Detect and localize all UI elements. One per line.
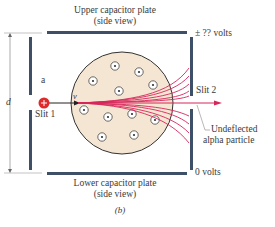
left-wall-lower: [29, 110, 32, 170]
figure-caption: (b): [110, 205, 130, 216]
right-wall-upper: [190, 37, 193, 96]
nucleus-icon: [89, 77, 97, 85]
nucleus-icon: [104, 113, 112, 121]
nucleus-icon: [111, 62, 119, 70]
lower-plate-label-line2: (side view): [60, 189, 170, 200]
undeflected-label-line2: alpha particle: [203, 135, 254, 146]
right-wall-lower: [190, 109, 193, 170]
upper-plate-label-line1: Upper capacitor plate: [60, 5, 170, 16]
nucleus-icon: [80, 106, 88, 114]
nucleus-icon: [130, 131, 138, 139]
slit1-label: Slit 1: [35, 109, 55, 120]
nucleus-icon: [98, 133, 106, 141]
velocity-label: v: [73, 91, 77, 102]
alpha-particle-icon: [39, 98, 50, 109]
lower-voltage-label: 0 volts: [195, 167, 221, 178]
leader-line: [197, 105, 210, 130]
nucleus-icon: [149, 81, 157, 89]
slit2-label: Slit 2: [196, 85, 216, 96]
undeflected-label-line1: Undeflected: [211, 124, 257, 135]
lower-capacitor-plate: [47, 172, 187, 175]
region-a-label: a: [41, 75, 45, 86]
nucleus-icon: [115, 87, 123, 95]
nucleus-icon: [135, 68, 143, 76]
upper-voltage-label: ± ?? volts: [195, 28, 232, 39]
distance-d-label: d: [6, 97, 11, 108]
undeflected-arrowhead-icon: [214, 101, 222, 106]
lower-plate-label-line1: Lower capacitor plate: [60, 178, 170, 189]
upper-plate-label-line2: (side view): [60, 16, 170, 27]
left-wall-upper: [29, 37, 32, 95]
upper-capacitor-plate: [47, 31, 187, 34]
